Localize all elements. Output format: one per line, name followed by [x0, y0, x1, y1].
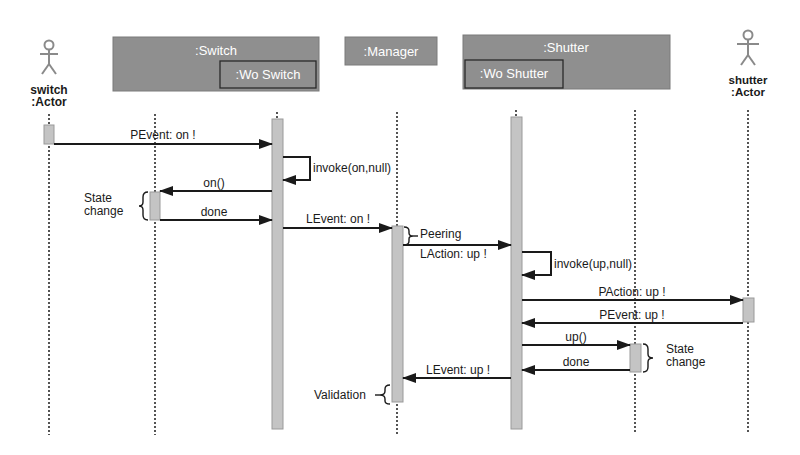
- actor-type: :Actor: [31, 95, 67, 109]
- message-label: LEvent: on !: [306, 212, 370, 226]
- inner-participant-label: :Wo Shutter: [480, 66, 549, 81]
- manager-participant: :Manager: [345, 37, 437, 65]
- message-label: invoke(up,null): [554, 257, 632, 271]
- participant-label: :Manager: [364, 44, 420, 59]
- message-label: up(): [565, 330, 586, 344]
- actor-stick-figure-icon: [737, 31, 759, 66]
- message-label: invoke(on,null): [313, 161, 391, 175]
- message-arrow-invoke-on: [283, 157, 310, 180]
- activation-switch: [272, 119, 283, 429]
- activation-shutter-actor: [743, 298, 754, 322]
- message-label: PAction: up !: [598, 285, 665, 299]
- sequence-diagram: switch :Actor :Switch :Wo Switch :Manage…: [0, 0, 800, 455]
- message-label: PEvent: up !: [599, 308, 664, 322]
- activation-wo-shutter: [630, 344, 641, 372]
- activation-manager: [392, 226, 403, 402]
- svg-text:State: State: [666, 342, 694, 356]
- shutter-actor: shutter :Actor: [729, 31, 769, 99]
- shutter-participant: :Shutter :Wo Shutter: [463, 35, 670, 89]
- participant-label: :Switch: [195, 43, 237, 58]
- activation-bars: [44, 117, 754, 429]
- message-label: LAction: up !: [420, 247, 487, 261]
- switch-actor: switch :Actor: [30, 41, 67, 110]
- actor-stick-figure-icon: [40, 41, 58, 75]
- message-label: LEvent: up !: [426, 363, 490, 377]
- brace-icon: [139, 192, 148, 220]
- activation-shutter: [511, 117, 522, 429]
- svg-text:Validation: Validation: [314, 388, 366, 402]
- brace-icon: [643, 344, 653, 372]
- participant-label: :Shutter: [543, 40, 589, 55]
- activation-switch-actor: [44, 125, 54, 144]
- message-label: on(): [203, 176, 224, 190]
- svg-text:Peering: Peering: [420, 227, 461, 241]
- state-change-annotation-right: State change: [643, 342, 706, 372]
- validation-annotation: Validation: [314, 385, 390, 404]
- actor-name: shutter: [729, 74, 769, 86]
- message-label: done: [201, 205, 228, 219]
- svg-text:change: change: [84, 204, 124, 218]
- message-label: PEvent: on !: [130, 128, 195, 142]
- svg-text:State: State: [84, 191, 112, 205]
- message-arrow-invoke-up: [522, 252, 551, 275]
- state-change-annotation-left: State change: [84, 191, 148, 220]
- peering-annotation: Peering: [404, 227, 461, 245]
- actor-type: :Actor: [731, 86, 765, 98]
- svg-text:change: change: [666, 355, 706, 369]
- inner-participant-label: :Wo Switch: [236, 67, 301, 82]
- switch-participant: :Switch :Wo Switch: [113, 37, 319, 91]
- activation-wo-switch: [150, 192, 160, 220]
- message-label: done: [563, 355, 590, 369]
- brace-icon: [404, 227, 413, 245]
- brace-icon: [380, 385, 390, 404]
